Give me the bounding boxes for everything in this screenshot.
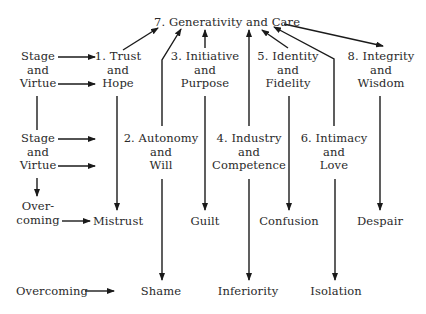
- label-virtue: Virtue: [20, 77, 57, 91]
- stage-virtue: Purpose: [171, 77, 239, 91]
- stage-virtue: Fidelity: [257, 77, 318, 91]
- stage-virtue: Love: [301, 159, 368, 173]
- node-stage-5-identity-fidelity: 5. Identity and Fidelity: [257, 50, 318, 91]
- erikson-stages-diagram: 7. Generativity and Care Stage and Virtu…: [0, 0, 426, 314]
- crisis-guilt: Guilt: [190, 215, 219, 229]
- node-generativity-and-care: 7. Generativity and Care: [154, 16, 300, 30]
- crisis-label: Confusion: [259, 215, 319, 229]
- node-stage-6-intimacy-love: 6. Intimacy and Love: [301, 132, 368, 173]
- label-virtue: Virtue: [20, 159, 57, 173]
- label-and: and: [20, 146, 57, 160]
- node-stage-1-trust-hope: 1. Trust and Hope: [95, 50, 142, 91]
- stage-virtue: Wisdom: [348, 77, 415, 91]
- stage-virtue: Will: [124, 159, 199, 173]
- stage-and: and: [257, 64, 318, 78]
- label-and: and: [20, 64, 57, 78]
- label-overcoming: Overcoming: [16, 285, 88, 299]
- node-stage-2-autonomy-will: 2. Autonomy and Will: [124, 132, 199, 173]
- stage-and: and: [348, 64, 415, 78]
- crisis-confusion: Confusion: [259, 215, 319, 229]
- crisis-label: Mistrust: [93, 215, 143, 229]
- stage-virtue: Hope: [95, 77, 142, 91]
- arrow-trust-to-generativity: [123, 28, 158, 50]
- crisis-label: Despair: [357, 215, 403, 229]
- crisis-label: Shame: [141, 285, 181, 299]
- node-label: 7. Generativity and Care: [154, 16, 300, 30]
- crisis-label: Guilt: [190, 215, 219, 229]
- stage-and: and: [124, 146, 199, 160]
- stage-title: 5. Identity: [257, 50, 318, 64]
- stage-title: 2. Autonomy: [124, 132, 199, 146]
- label-over: Over-: [16, 200, 59, 214]
- crisis-despair: Despair: [357, 215, 403, 229]
- crisis-label: Inferiority: [218, 285, 279, 299]
- left-stage-and-virtue-1: Stage and Virtue: [20, 50, 57, 91]
- left-overcoming-split: Over- coming: [16, 200, 59, 227]
- node-stage-8-integrity-wisdom: 8. Integrity and Wisdom: [348, 50, 415, 91]
- left-stage-and-virtue-2: Stage and Virtue: [20, 132, 57, 173]
- stage-and: and: [95, 64, 142, 78]
- crisis-isolation: Isolation: [310, 285, 361, 299]
- stage-title: 8. Integrity: [348, 50, 415, 64]
- stage-title: 1. Trust: [95, 50, 142, 64]
- stage-and: and: [212, 146, 286, 160]
- stage-title: 3. Initiative: [171, 50, 239, 64]
- stage-title: 6. Intimacy: [301, 132, 368, 146]
- crisis-inferiority: Inferiority: [218, 285, 279, 299]
- left-overcoming: Overcoming: [16, 285, 88, 299]
- stage-title: 4. Industry: [212, 132, 286, 146]
- crisis-mistrust: Mistrust: [93, 215, 143, 229]
- node-stage-3-initiative-purpose: 3. Initiative and Purpose: [171, 50, 239, 91]
- node-stage-4-industry-competence: 4. Industry and Competence: [212, 132, 286, 173]
- stage-virtue: Competence: [212, 159, 286, 173]
- crisis-shame: Shame: [141, 285, 181, 299]
- stage-and: and: [171, 64, 239, 78]
- label-stage: Stage: [20, 132, 57, 146]
- stage-and: and: [301, 146, 368, 160]
- crisis-label: Isolation: [310, 285, 361, 299]
- label-stage: Stage: [20, 50, 57, 64]
- label-coming: coming: [16, 214, 59, 228]
